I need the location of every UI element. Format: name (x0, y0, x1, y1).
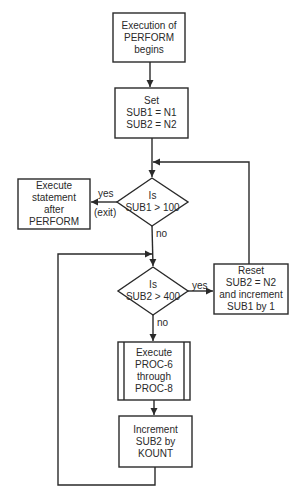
d1-exit-label: (exit) (94, 207, 116, 218)
decision1-node: Is SUB1 > 100 (117, 184, 188, 220)
execute-line-2: PROC-6 (135, 359, 173, 371)
execute-line-1: Execute (136, 347, 172, 359)
d2-yes-label: yes (192, 280, 208, 291)
start-line-1: Execution of (121, 20, 176, 32)
increment-node: Increment SUB2 by KOUNT (119, 416, 192, 467)
start-node: Execution of PERFORM begins (113, 13, 185, 62)
increment-line-1: Increment (133, 424, 177, 436)
init-line-2: SUB1 = N1 (126, 107, 176, 119)
init-node: Set SUB1 = N1 SUB2 = N2 (115, 88, 188, 138)
execute-line-4: PROC-8 (135, 383, 173, 395)
d1-no-label: no (156, 228, 167, 239)
start-line-3: begins (134, 44, 163, 56)
decision2-line-2: SUB2 > 400 (126, 291, 180, 303)
decision1-line-1: Is (149, 190, 157, 202)
execute-node: Execute PROC-6 through PROC-8 (118, 342, 190, 400)
increment-line-3: KOUNT (138, 448, 173, 460)
d2-no-label: no (157, 317, 168, 328)
init-line-3: SUB2 = N2 (126, 119, 176, 131)
decision2-node: Is SUB2 > 400 (118, 273, 188, 309)
reset-node: Reset SUB2 = N2 and increment SUB1 by 1 (214, 264, 288, 314)
init-line-1: Set (144, 95, 159, 107)
exit-line-4: PERFORM (29, 216, 79, 228)
decision1-line-2: SUB1 > 100 (125, 202, 179, 214)
edge-d1-d2 (152, 226, 153, 266)
decision2-line-1: Is (149, 279, 157, 291)
reset-line-2: SUB2 = N2 (226, 277, 276, 289)
start-line-2: PERFORM (124, 32, 174, 44)
execute-line-3: through (137, 371, 171, 383)
reset-line-4: SUB1 by 1 (227, 301, 275, 313)
exit-node: Execute statement after PERFORM (18, 179, 90, 229)
d1-yes-label: yes (98, 188, 114, 199)
increment-line-2: SUB2 by (136, 436, 175, 448)
reset-line-3: and increment (219, 289, 282, 301)
exit-line-3: after (44, 204, 64, 216)
reset-line-1: Reset (238, 265, 264, 277)
exit-line-1: Execute (36, 180, 72, 192)
exit-line-2: statement (32, 192, 76, 204)
